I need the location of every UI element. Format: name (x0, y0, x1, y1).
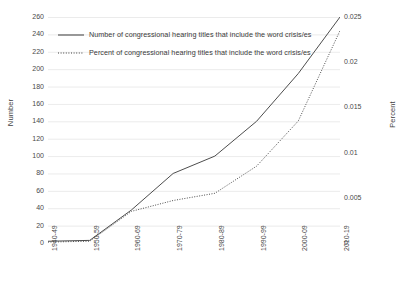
x-tick-label-1990-99: 1990-99 (260, 225, 267, 251)
legend-solid-line-icon (58, 31, 84, 39)
y-left-tick-0: 0 (40, 239, 44, 246)
y-left-tick-160: 160 (32, 100, 44, 107)
y-left-tick-220: 220 (32, 48, 44, 55)
y-left-tick-260: 260 (32, 13, 44, 20)
chart-legend: Number of congressional hearing titles t… (58, 27, 328, 63)
y-left-tick-40: 40 (36, 204, 44, 211)
y-left-tick-140: 140 (32, 117, 44, 124)
legend-item-percent: Percent of congressional hearing titles … (58, 45, 328, 60)
x-axis-ticks: 1940-491950-591960-691970-791980-891990-… (48, 243, 340, 286)
chart-container: Number Percent 0204060801001201401601802… (0, 0, 401, 286)
x-tick-label-1970-79: 1970-79 (176, 225, 183, 251)
legend-item-number: Number of congressional hearing titles t… (58, 27, 328, 42)
y-left-tick-80: 80 (36, 169, 44, 176)
y-left-tick-120: 120 (32, 135, 44, 142)
y-left-tick-200: 200 (32, 65, 44, 72)
y-right-tick-0.015: 0.015 (344, 103, 362, 110)
x-tick-label-2010-19: 2010-19 (343, 225, 350, 251)
y-left-tick-240: 240 (32, 30, 44, 37)
y-right-tick-0.005: 0.005 (344, 194, 362, 201)
legend-item-number-label: Number of congressional hearing titles t… (89, 30, 311, 39)
y-axis-right-title: Percent (388, 89, 397, 141)
x-tick-label-1960-69: 1960-69 (134, 225, 141, 251)
x-tick-label-1980-89: 1980-89 (218, 225, 225, 251)
y-left-tick-180: 180 (32, 83, 44, 90)
y-left-tick-60: 60 (36, 187, 44, 194)
y-left-tick-20: 20 (36, 222, 44, 229)
y-axis-left-ticks: 020406080100120140160180200220240260 (14, 0, 44, 286)
legend-dotted-line-icon (58, 49, 84, 57)
legend-item-percent-label: Percent of congressional hearing titles … (89, 48, 311, 57)
y-left-tick-100: 100 (32, 152, 44, 159)
y-right-tick-0.01: 0.01 (344, 149, 358, 156)
y-right-tick-0.025: 0.025 (344, 13, 362, 20)
y-right-tick-0.02: 0.02 (344, 58, 358, 65)
x-tick-label-1950-59: 1950-59 (93, 225, 100, 251)
x-tick-label-1940-49: 1940-49 (51, 225, 58, 251)
x-tick-label-2000-09: 2000-09 (301, 225, 308, 251)
